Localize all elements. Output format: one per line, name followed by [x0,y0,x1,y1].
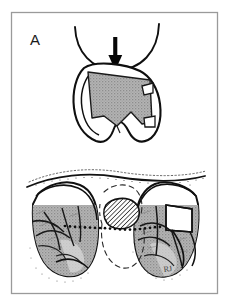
figure-panel: A [0,0,232,306]
defect-notch-lower [144,116,155,127]
artist-signature: RJ [163,264,173,274]
panel-label: A [30,31,40,48]
anatomical-figure: A [0,0,232,306]
hatched-tibial-spine [104,198,139,228]
